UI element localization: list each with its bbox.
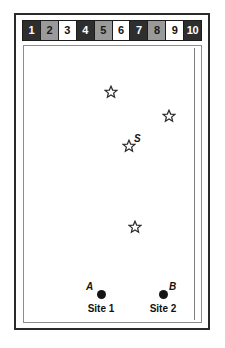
site-b-name: Site 2 (150, 304, 177, 314)
scale-cell-3: 3 (59, 21, 77, 40)
star-label-s: S (134, 134, 141, 144)
scale-cell-10: 10 (184, 21, 201, 40)
distance-scale-strip: 12345678910 (22, 20, 202, 41)
star-marker-1 (104, 85, 118, 99)
scale-cell-2: 2 (41, 21, 59, 40)
site-a-point-label: A (86, 282, 93, 292)
star-marker-2 (162, 109, 176, 123)
site-a-name: Site 1 (88, 304, 115, 314)
site-b-dot (159, 290, 168, 299)
map-panel: SASite 1BSite 2 (23, 45, 202, 323)
scale-cell-1: 1 (23, 21, 41, 40)
star-marker-4 (128, 220, 142, 234)
map-right-rule (194, 48, 195, 320)
figure-frame: 12345678910 SASite 1BSite 2 (14, 13, 210, 330)
scale-cell-7: 7 (130, 21, 148, 40)
scale-cell-8: 8 (148, 21, 166, 40)
scale-cell-5: 5 (95, 21, 113, 40)
scale-cell-6: 6 (113, 21, 131, 40)
site-b-point-label: B (169, 282, 176, 292)
scale-cell-9: 9 (166, 21, 184, 40)
scale-cell-4: 4 (77, 21, 95, 40)
site-a-dot (97, 290, 106, 299)
